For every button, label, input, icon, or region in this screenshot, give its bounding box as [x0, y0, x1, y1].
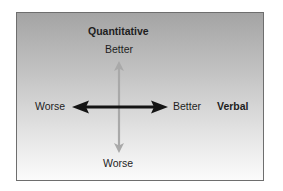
vertical-axis-top-label: Better [105, 44, 133, 55]
vertical-axis-bottom-label: Worse [103, 158, 133, 169]
horizontal-axis-title: Verbal [217, 101, 249, 112]
horizontal-axis-right-label: Better [173, 101, 201, 112]
horizontal-axis-left-label: Worse [35, 101, 65, 112]
vertical-axis-title: Quantitative [88, 26, 149, 37]
